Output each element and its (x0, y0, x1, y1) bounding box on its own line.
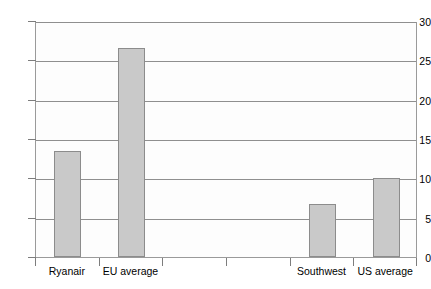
bar-chart: 302520151050 RyanairEU averageSouthwestU… (0, 0, 431, 289)
gridline-15 (36, 140, 416, 141)
gridline-30 (36, 22, 416, 23)
bar-eu-average (118, 48, 145, 257)
plot-area (35, 22, 417, 258)
x-tick-label: US average (353, 266, 417, 278)
gridline-5 (36, 219, 416, 220)
bar-ryanair (54, 151, 81, 257)
x-tick-2 (162, 258, 163, 266)
y-tick-10 (28, 178, 36, 179)
y-tick-label: 0 (405, 253, 431, 264)
y-tick-25 (28, 60, 36, 61)
bar-us-average (373, 178, 400, 257)
y-tick-15 (28, 139, 36, 140)
y-tick-label: 25 (405, 56, 431, 67)
gridline-20 (36, 101, 416, 102)
y-tick-label: 15 (405, 135, 431, 146)
x-tick-0 (35, 258, 36, 266)
gridline-10 (36, 179, 416, 180)
y-tick-label: 20 (405, 95, 431, 106)
y-tick-label: 10 (405, 174, 431, 185)
x-tick-4 (290, 258, 291, 266)
x-tick-5 (353, 258, 354, 266)
x-tick-label: Ryanair (35, 266, 99, 278)
y-tick-30 (28, 21, 36, 22)
y-tick-label: 30 (405, 17, 431, 28)
y-tick-label: 5 (405, 213, 431, 224)
x-tick-label: EU average (99, 266, 163, 278)
x-tick-label: Southwest (290, 266, 354, 278)
x-tick-1 (99, 258, 100, 266)
gridline-25 (36, 61, 416, 62)
bar-southwest (309, 204, 336, 257)
x-tick-3 (226, 258, 227, 266)
y-tick-5 (28, 218, 36, 219)
y-tick-20 (28, 100, 36, 101)
x-tick-end (416, 258, 417, 266)
